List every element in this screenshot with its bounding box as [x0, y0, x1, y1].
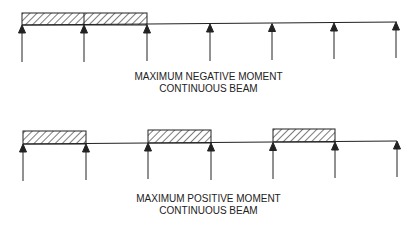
support-arrow-icon [393, 22, 400, 58]
uniform-load-hatch [148, 130, 211, 143]
support-arrow-icon [145, 143, 152, 179]
support-arrow-icon [83, 144, 90, 180]
support-arrow-icon [270, 143, 277, 180]
uniform-load-hatch [273, 129, 335, 142]
caption-title: MAXIMUM NEGATIVE MOMENT [0, 71, 417, 83]
support-arrow-icon [144, 25, 151, 61]
support-arrow-icon [269, 24, 276, 61]
support-arrow-icon [81, 25, 88, 62]
negative-moment-caption: MAXIMUM NEGATIVE MOMENT CONTINUOUS BEAM [0, 71, 417, 94]
support-arrow-icon [394, 141, 401, 177]
positive-moment-caption: MAXIMUM POSITIVE MOMENT CONTINUOUS BEAM [0, 193, 417, 216]
support-arrow-icon [332, 142, 339, 178]
support-arrow-icon [20, 144, 27, 181]
support-arrow-icon [331, 23, 338, 59]
caption-subtitle: CONTINUOUS BEAM [0, 83, 417, 95]
support-arrow-icon [208, 143, 215, 180]
support-arrows [20, 141, 401, 181]
caption-title: MAXIMUM POSITIVE MOMENT [0, 193, 417, 205]
negative-moment-diagram [19, 13, 400, 62]
caption-subtitle: CONTINUOUS BEAM [0, 205, 417, 217]
support-arrows [19, 22, 400, 62]
support-arrow-icon [207, 24, 214, 61]
uniform-load-hatch [23, 131, 86, 144]
support-arrow-icon [19, 25, 26, 62]
positive-moment-diagram [20, 129, 401, 181]
